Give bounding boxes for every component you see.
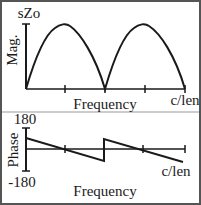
magnitude-plot: sZo Mag. Frequency c/len xyxy=(4,5,200,112)
magnitude-curve xyxy=(26,24,185,89)
mag-y-label: Mag. xyxy=(4,34,20,65)
mag-x-label: Frequency xyxy=(73,96,137,112)
phase-min-label: -180 xyxy=(8,174,36,190)
phase-y-label: Phase xyxy=(5,132,21,167)
phase-max-label: 180 xyxy=(14,111,37,127)
impedance-diagram: sZo Mag. Frequency c/len 180 -180 Phase … xyxy=(0,0,201,205)
phase-x-end-label: c/len xyxy=(161,163,191,179)
phase-x-label: Frequency xyxy=(73,183,137,199)
phase-plot: 180 -180 Phase c/len Frequency xyxy=(5,111,191,199)
mag-top-label: sZo xyxy=(18,5,41,21)
phase-curve xyxy=(26,138,183,162)
mag-x-end-label: c/len xyxy=(170,92,200,108)
diagram-frame: sZo Mag. Frequency c/len 180 -180 Phase … xyxy=(0,0,201,205)
